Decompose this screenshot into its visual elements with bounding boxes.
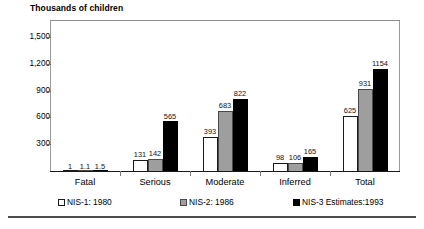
black-square-icon — [293, 199, 300, 206]
x-tick-mark — [260, 171, 261, 176]
chart-figure: Thousands of children 3006009001,2001,50… — [0, 0, 424, 229]
bar[interactable] — [343, 116, 358, 172]
legend-item[interactable]: NIS-3 Estimates:1993 — [293, 197, 383, 207]
bar-value-label: 822 — [228, 90, 253, 97]
legend-label: NIS-2: 1986 — [189, 197, 234, 207]
bar[interactable] — [233, 99, 248, 172]
bar-group: 11.11.5 — [63, 20, 108, 172]
legend-item[interactable]: NIS-2: 1986 — [180, 197, 234, 207]
bar[interactable] — [203, 137, 218, 172]
y-tick-label: 1,500 — [8, 33, 50, 41]
bar-group: 393683822 — [203, 20, 248, 172]
bar[interactable] — [163, 121, 178, 172]
legend-label: NIS-1: 1980 — [67, 197, 112, 207]
y-axis: 3006009001,2001,500 — [0, 0, 50, 229]
x-tick-mark — [120, 171, 121, 176]
bar-group: 131142565 — [133, 20, 178, 172]
x-category-label: Moderate — [190, 177, 260, 188]
bar[interactable] — [303, 157, 318, 172]
bar-value-label: 165 — [298, 148, 323, 155]
x-tick-mark — [190, 171, 191, 176]
bar-group: 6259311154 — [343, 20, 388, 172]
gray-square-icon — [180, 199, 187, 206]
chart-legend: NIS-1: 1980NIS-2: 1986NIS-3 Estimates:19… — [50, 197, 400, 211]
x-tick-mark — [330, 171, 331, 176]
x-category-label: Serious — [120, 177, 190, 188]
bottom-divider — [8, 216, 416, 218]
bar[interactable] — [358, 89, 373, 172]
legend-item[interactable]: NIS-1: 1980 — [58, 197, 112, 207]
x-category-label: Total — [330, 177, 400, 188]
plot-area: 11.11.5131142565393683822981061656259311… — [50, 20, 400, 172]
bar[interactable] — [373, 69, 388, 172]
y-tick-label: 900 — [8, 87, 50, 95]
bar[interactable] — [218, 111, 233, 172]
legend-label: NIS-3 Estimates:1993 — [302, 197, 383, 207]
white-square-icon — [58, 199, 65, 206]
bar-value-label: 1.5 — [88, 163, 113, 170]
y-tick-label: 300 — [8, 140, 50, 148]
x-category-label: Inferred — [260, 177, 330, 188]
bar-value-label: 1154 — [368, 60, 393, 67]
x-category-label: Fatal — [50, 177, 120, 188]
bar-value-label: 565 — [158, 113, 183, 120]
y-tick-label: 1,200 — [8, 60, 50, 68]
y-tick-label: 600 — [8, 113, 50, 121]
bar-group: 98106165 — [273, 20, 318, 172]
x-axis-line — [50, 171, 400, 172]
